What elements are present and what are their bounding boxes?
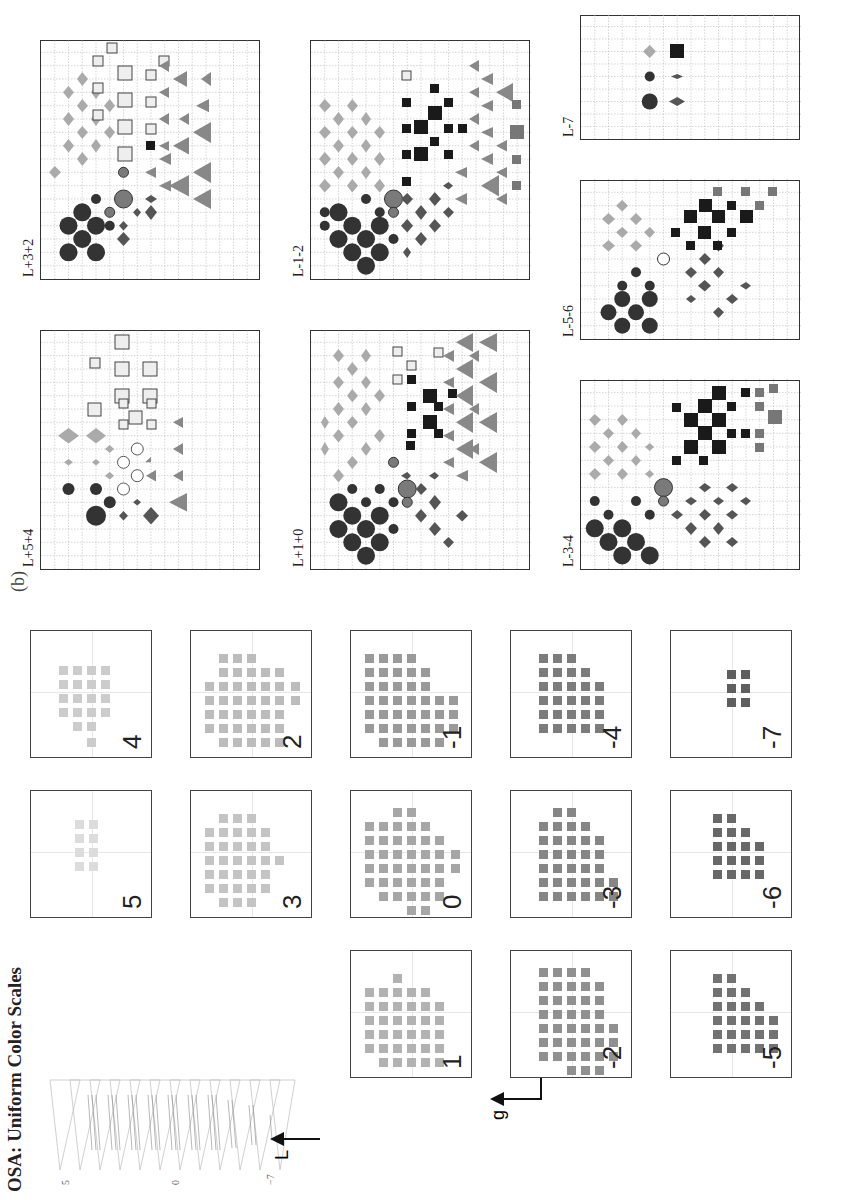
panel-L-4: 4 [30,630,152,758]
chart-L+5+4: L+5+4 [40,330,260,570]
chart-L+3+2: L+3+2 [40,40,260,280]
panel-L-2: 2 [190,630,312,758]
chart-title: L-3-4 [561,535,577,567]
panel-L-0: 0 [350,790,472,918]
panel-L-label: -1 [437,726,468,749]
panel-L-3: 3 [190,790,312,918]
panel-L-minus2: -2 [510,950,632,1078]
g-axis-arrowhead [490,1092,504,1106]
panel-L-minus5: -5 [670,950,792,1078]
panel-L-1: 1 [350,950,472,1078]
panel-L-label: 5 [117,895,148,909]
chart-L-7: L-7 [580,15,800,140]
panel-L-5: 5 [30,790,152,918]
chart-L-3-4: L-3-4 [580,380,800,570]
l-stack-diagram [40,1070,300,1180]
panel-L-label: -3 [597,886,628,909]
grid-svg [581,379,801,569]
panel-L-minus7: -7 [670,630,792,758]
figure-title: OSA: Uniform Color Scales [4,967,26,1192]
panel-L-minus6: -6 [670,790,792,918]
panel-L-label: -5 [757,1046,788,1069]
part-b-label: (b) [8,571,29,592]
grid-svg [581,179,801,339]
panel-L-label: -7 [757,726,788,749]
panel-L-label: 3 [277,895,308,909]
panel-L-minus3: -3 [510,790,632,918]
l-axis-line [280,1138,320,1140]
panel-L-label: -6 [757,886,788,909]
stack-label-0: 0 [170,1180,181,1185]
l-axis-arrowhead [270,1132,284,1146]
chart-title: L+3+2 [21,239,37,277]
panel-L-label: -4 [597,726,628,749]
g-axis-line [500,1098,540,1100]
panel-L-label: 0 [437,895,468,909]
panel-L-minus4: -4 [510,630,632,758]
figure-stage: OSA: Uniform Color Scales [0,0,846,1200]
chart-title: L-7 [561,117,577,137]
panel-L-minus1: -1 [350,630,472,758]
panel-L-label: -2 [597,1046,628,1069]
stack-label-5: 5 [60,1180,71,1185]
grid-svg [311,329,531,569]
chart-title: L+5+4 [21,529,37,567]
chart-L-1-2: L-1-2 [310,40,530,280]
grid-svg [311,39,531,279]
stack-label-minus7: −7 [265,1174,276,1185]
grid-svg [41,329,261,569]
l-axis-label: L [272,1150,293,1160]
g-axis-label: g [488,1110,509,1120]
grid-svg [41,39,261,279]
chart-title: L+1+0 [291,529,307,567]
panel-L-label: 4 [117,735,148,749]
chart-L-5-6: L-5-6 [580,180,800,340]
chart-title: L-5-6 [561,305,577,337]
panel-L-label: 2 [277,735,308,749]
chart-L+1+0: L+1+0 [310,330,530,570]
grid-svg [581,14,801,139]
panel-L-label: 1 [437,1055,468,1069]
chart-title: L-1-2 [291,245,307,277]
l-stack-sketch [40,1070,300,1180]
